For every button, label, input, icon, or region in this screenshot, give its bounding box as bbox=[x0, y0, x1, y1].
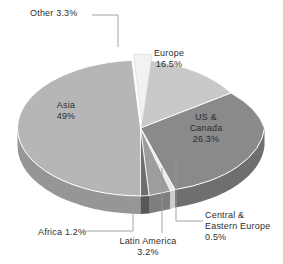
slice-label-us-canada-name-line2: Canada bbox=[178, 123, 234, 134]
slice-label-us-canada-name-line1: US & bbox=[178, 112, 234, 123]
slice-label-africa-text: Africa 1.2% bbox=[38, 227, 86, 237]
slice-label-central-eastern-europe-value: 0.5% bbox=[205, 232, 283, 243]
slice-label-asia-name: Asia bbox=[38, 100, 94, 111]
slice-label-central-eastern-europe-name-line2: Eastern Europe bbox=[205, 221, 283, 232]
slice-label-other-text: Other 3.3% bbox=[30, 8, 78, 18]
slice-label-us-canada-value: 26.3% bbox=[178, 134, 234, 145]
slice-label-europe-name: Europe bbox=[139, 48, 199, 59]
slice-label-us-canada: US & Canada 26.3% bbox=[178, 112, 234, 145]
slice-label-latin-america: Latin America 3.2% bbox=[106, 236, 190, 258]
slice-label-africa: Africa 1.2% bbox=[38, 227, 86, 238]
slice-label-europe-value: 16.5% bbox=[139, 59, 199, 70]
slice-label-latin-america-name: Latin America bbox=[106, 236, 190, 247]
slice-label-asia-value: 49% bbox=[38, 111, 94, 122]
slice-label-asia: Asia 49% bbox=[38, 100, 94, 122]
slice-label-other: Other 3.3% bbox=[30, 8, 78, 19]
slice-side-central-eastern-europe bbox=[171, 190, 176, 209]
slice-label-central-eastern-europe-name-line1: Central & bbox=[205, 210, 283, 221]
pie-chart: Other 3.3% Europe 16.5% US & Canada 26.3… bbox=[0, 0, 283, 264]
slice-label-europe: Europe 16.5% bbox=[139, 48, 199, 70]
slice-label-latin-america-value: 3.2% bbox=[106, 247, 190, 258]
slice-label-central-eastern-europe: Central & Eastern Europe 0.5% bbox=[205, 210, 283, 243]
leader-line-other bbox=[92, 15, 118, 47]
slice-side-africa bbox=[141, 196, 150, 215]
